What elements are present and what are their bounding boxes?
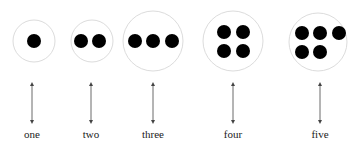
enclosing-circle — [289, 13, 347, 71]
numerosity-diagram: onetwothreefourfive — [0, 0, 360, 150]
label-five: five — [311, 128, 328, 140]
dot — [295, 45, 309, 59]
dot — [165, 34, 179, 48]
dot — [217, 25, 231, 39]
dot — [236, 44, 250, 58]
group-one: one — [13, 20, 55, 140]
dot — [313, 26, 327, 40]
dot — [27, 34, 41, 48]
enclosing-circle — [203, 11, 263, 71]
group-four: four — [203, 11, 263, 140]
label-two: two — [83, 128, 100, 140]
dot — [313, 45, 327, 59]
dot — [332, 26, 346, 40]
label-four: four — [224, 128, 243, 140]
label-three: three — [142, 128, 164, 140]
group-three: three — [123, 11, 183, 140]
group-two: two — [71, 20, 113, 140]
dot — [92, 34, 106, 48]
group-five: five — [289, 13, 347, 140]
dot — [236, 25, 250, 39]
label-one: one — [24, 128, 40, 140]
dot — [128, 34, 142, 48]
dot — [295, 26, 309, 40]
dot — [217, 44, 231, 58]
dot — [146, 34, 160, 48]
dot — [74, 34, 88, 48]
